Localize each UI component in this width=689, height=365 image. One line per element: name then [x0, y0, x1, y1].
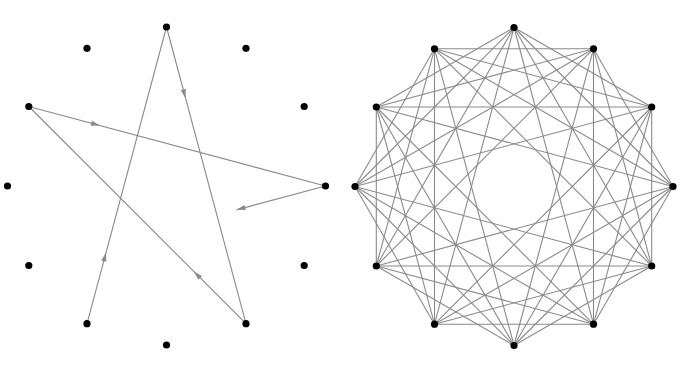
vertex-dot	[242, 45, 249, 52]
vertex-dot	[301, 262, 308, 269]
vertex-dot	[373, 262, 380, 269]
right-vertices	[351, 24, 676, 349]
chord-line	[435, 49, 652, 107]
vertex-dot	[648, 103, 655, 110]
chord-line	[376, 28, 514, 108]
arrow-head-icon	[181, 89, 186, 98]
chord-line	[376, 49, 593, 266]
chord-line	[355, 49, 435, 187]
chord-line	[514, 28, 652, 108]
vertex-dot	[242, 320, 249, 327]
arrow-head-icon	[101, 252, 106, 261]
vertex-dot	[163, 341, 170, 348]
left-star-path-diagram	[4, 23, 329, 348]
path-segment	[87, 27, 167, 324]
vertex-dot	[590, 45, 597, 52]
chord-line	[376, 266, 514, 346]
chord-line	[594, 49, 674, 187]
chord-line	[376, 107, 593, 324]
chord-line	[594, 187, 674, 325]
vertex-dot	[431, 321, 438, 328]
chord-line	[355, 187, 435, 325]
chord-line	[376, 28, 514, 267]
diagram-canvas	[0, 0, 689, 365]
vertex-dot	[351, 183, 358, 190]
left-path-edges	[29, 27, 326, 324]
chord-line	[435, 187, 674, 325]
chord-line	[514, 28, 652, 267]
path-segment	[167, 27, 247, 324]
chord-line	[435, 49, 652, 266]
left-path-arrows	[91, 89, 246, 280]
chord-line	[514, 107, 652, 346]
vertex-dot	[83, 320, 90, 327]
left-vertices	[4, 23, 329, 348]
vertex-dot	[25, 103, 32, 110]
vertex-dot	[25, 262, 32, 269]
vertex-dot	[510, 24, 517, 31]
chord-line	[435, 49, 674, 187]
vertex-dot	[4, 182, 11, 189]
path-segment	[236, 186, 325, 210]
path-segment	[29, 107, 326, 187]
vertex-dot	[510, 342, 517, 349]
chord-line	[514, 266, 652, 346]
vertex-dot	[431, 45, 438, 52]
vertex-dot	[669, 183, 676, 190]
vertex-dot	[83, 45, 90, 52]
vertex-dot	[301, 103, 308, 110]
right-chords	[355, 28, 673, 346]
chord-line	[376, 107, 514, 346]
vertex-dot	[322, 182, 329, 189]
chord-line	[355, 187, 594, 325]
vertex-dot	[590, 321, 597, 328]
chord-line	[435, 107, 652, 324]
path-segment	[29, 107, 246, 324]
vertex-dot	[163, 23, 170, 30]
chord-line	[355, 49, 594, 187]
arrow-head-icon	[91, 121, 100, 126]
arrow-head-icon	[236, 205, 245, 210]
vertex-dot	[373, 103, 380, 110]
right-chord-diagram	[351, 24, 676, 349]
vertex-dot	[648, 262, 655, 269]
